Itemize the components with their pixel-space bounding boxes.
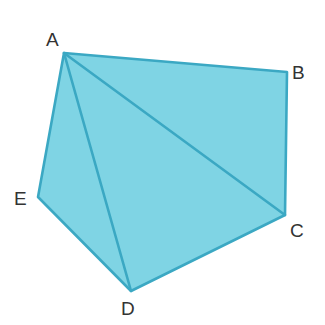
vertex-label-e: E	[14, 189, 27, 208]
vertex-label-b: B	[292, 63, 305, 82]
vertex-label-a: A	[46, 30, 59, 49]
vertex-label-c: C	[290, 221, 304, 240]
geometry-figure: A B C D E	[0, 0, 325, 325]
vertex-label-d: D	[121, 299, 135, 318]
